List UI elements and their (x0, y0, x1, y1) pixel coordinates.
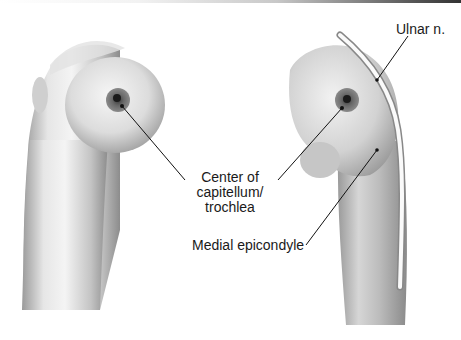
ulnar-nerve-leader-line (377, 36, 408, 80)
ulnar-nerve-label: Ulnar n. (396, 22, 445, 37)
right-humerus (289, 45, 407, 325)
center-label-line-2: capitellum/ (185, 185, 275, 200)
left-target-marker (106, 88, 130, 112)
center-label-line-1: Center of (185, 170, 275, 185)
center-label-line-3: trochlea (185, 200, 275, 215)
right-target-marker (335, 88, 359, 112)
center-capitellum-trochlea-label: Center of capitellum/ trochlea (185, 170, 275, 215)
medial-epicondyle-label: Medial epicondyle (192, 238, 304, 253)
left-humerus (22, 41, 165, 310)
